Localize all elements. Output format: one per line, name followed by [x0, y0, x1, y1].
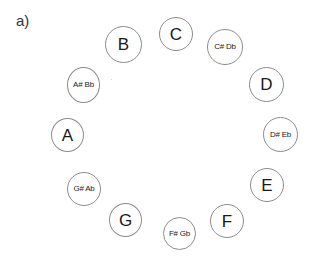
- note-node-f: F: [210, 204, 244, 238]
- note-node-c: C: [159, 17, 193, 51]
- note-label: C# Db: [214, 43, 236, 51]
- note-label: G: [119, 212, 132, 229]
- note-label: F# Gb: [169, 230, 190, 238]
- note-node-c-sharp: C# Db: [207, 29, 243, 65]
- stray-mark: [111, 79, 112, 80]
- note-label: A# Bb: [73, 81, 94, 89]
- note-node-e: E: [250, 168, 284, 202]
- note-node-a: A: [51, 118, 84, 152]
- note-label: D# Eb: [270, 131, 291, 139]
- note-node-g-sharp: G# Ab: [67, 172, 101, 206]
- note-node-a-sharp: A# Bb: [67, 67, 100, 103]
- note-node-d-sharp: D# Eb: [263, 117, 298, 152]
- note-node-f-sharp: F# Gb: [163, 217, 196, 250]
- panel-label: a): [16, 13, 29, 28]
- note-node-g: G: [109, 203, 142, 237]
- note-label: D: [260, 76, 272, 93]
- note-label: C: [170, 26, 182, 43]
- note-label: A: [62, 127, 73, 144]
- note-node-b: B: [105, 26, 142, 63]
- note-label: F: [222, 213, 232, 230]
- note-label: E: [261, 177, 272, 194]
- note-label: G# Ab: [73, 185, 94, 193]
- note-node-d: D: [249, 67, 284, 102]
- note-label: B: [118, 36, 129, 53]
